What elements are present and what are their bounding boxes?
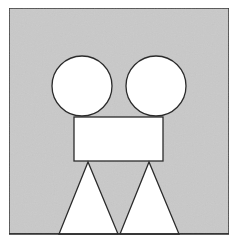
shape-diagram: [0, 0, 233, 247]
left-circle: [52, 56, 112, 116]
right-circle: [126, 56, 186, 116]
center-rectangle: [74, 117, 163, 161]
